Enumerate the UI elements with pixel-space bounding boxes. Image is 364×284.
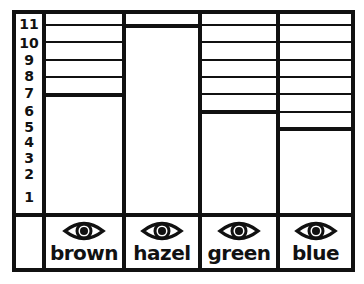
category-brown: brown (46, 218, 122, 268)
eye-icon (294, 220, 338, 242)
y-tick: 3 (16, 151, 42, 165)
category-label: blue (280, 242, 351, 264)
bar-hazel (126, 14, 198, 213)
label-row-divider (12, 213, 355, 217)
y-tick: 9 (16, 53, 42, 67)
y-tick: 4 (16, 135, 42, 149)
y-tick: 1 (16, 190, 42, 204)
y-tick: 5 (16, 120, 42, 134)
y-tick: 11 (16, 17, 42, 31)
category-label: green (202, 242, 276, 264)
y-tick: 6 (16, 104, 42, 118)
category-green: green (202, 218, 276, 268)
bar-blue (280, 14, 351, 213)
category-blue: blue (280, 218, 351, 268)
bar-green (202, 14, 276, 213)
category-hazel: hazel (126, 218, 198, 268)
category-label: hazel (126, 242, 198, 264)
eye-icon (217, 220, 261, 242)
eye-icon (140, 220, 184, 242)
eye-icon (62, 220, 106, 242)
y-tick: 7 (16, 86, 42, 100)
y-tick: 2 (16, 167, 42, 181)
category-label: brown (46, 242, 122, 264)
y-tick: 10 (16, 36, 42, 50)
y-tick: 8 (16, 69, 42, 83)
bar-brown (46, 14, 122, 213)
